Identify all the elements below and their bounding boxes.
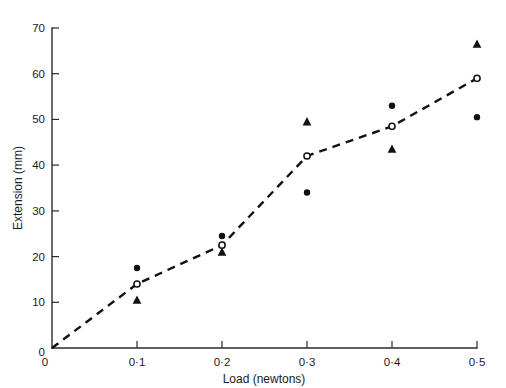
- x-tick-label-0-4: 0·4: [384, 356, 401, 368]
- data-point: [304, 153, 310, 159]
- data-point: [134, 265, 140, 271]
- data-point: [219, 233, 225, 239]
- x-tick-label-0-5: 0·5: [469, 356, 486, 368]
- x-tick-label-0-3: 0·3: [299, 356, 316, 368]
- y-tick-label-10: 10: [32, 296, 45, 308]
- y-tick-label-30: 30: [32, 205, 45, 217]
- data-point: [474, 114, 480, 120]
- y-tick-label-60: 60: [32, 68, 45, 80]
- y-tick-label-20: 20: [32, 251, 45, 263]
- data-point: [389, 103, 395, 109]
- data-point: [219, 242, 225, 248]
- chart-svg: 70 60 50 40 30 20 10 0 Extension (mm) 0: [0, 0, 506, 388]
- extension-vs-load-chart: 70 60 50 40 30 20 10 0 Extension (mm) 0: [0, 0, 506, 388]
- data-point: [134, 281, 140, 287]
- x-axis-title: Load (newtons): [223, 372, 306, 386]
- y-tick-label-40: 40: [32, 159, 45, 171]
- y-axis-title: Extension (mm): [11, 146, 25, 230]
- y-tick-label-70: 70: [32, 22, 45, 34]
- data-point: [389, 123, 395, 129]
- data-point: [474, 75, 480, 81]
- data-point: [304, 189, 310, 195]
- x-tick-label-0: 0: [42, 356, 48, 368]
- x-tick-label-0-2: 0·2: [214, 356, 231, 368]
- y-tick-label-50: 50: [32, 113, 45, 125]
- x-tick-label-0-1: 0·1: [129, 356, 146, 368]
